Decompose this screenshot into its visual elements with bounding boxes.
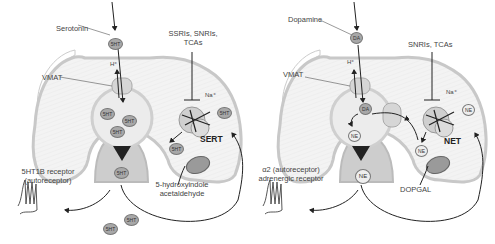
left-receptor-label-line1: 5HT1B receptor (18, 167, 78, 176)
vesicle-ne-molecule: NE (348, 130, 361, 142)
vesicle-serotonin-molecule: 5HT (122, 115, 137, 127)
right-receptor-label-line1: α2 (autoreceptor) (250, 165, 332, 174)
left-metabolite-line2: acetaldehyde (150, 189, 214, 198)
left-drug-label-line2: TCAs (165, 38, 221, 47)
left-metabolite-line1: 5-hydroxyindole (150, 180, 214, 189)
left-metabolite-label: 5-hydroxyindole acetaldehyde (150, 180, 214, 198)
right-proton-label: H⁺ (347, 58, 354, 67)
left-autoreceptor-icon (18, 180, 37, 214)
left-proton-label: H⁺ (110, 60, 117, 69)
left-receptor-label-line2: (autoreceptor) (18, 176, 78, 185)
dopgal-label: DOPGAL (400, 185, 431, 194)
left-drug-label-line1: SSRIs, SNRIs, (165, 29, 221, 38)
serotonin-label: Serotonin (56, 24, 88, 33)
sert-label: SERT (200, 135, 223, 144)
cytosolic-ne-molecule: NE (415, 145, 428, 157)
vesicle-serotonin-molecule: 5HT (100, 108, 115, 120)
vesicle-serotonin-molecule: 5HT (110, 126, 125, 138)
synaptic-serotonin-molecule: 5HT (103, 223, 118, 235)
right-presynaptic-terminal (278, 50, 486, 182)
reuptake-ne-molecule: NE (462, 104, 475, 116)
left-presynaptic-terminal (33, 50, 241, 182)
vesicle-dopamine-molecule: DA (359, 103, 372, 115)
left-vmat-label: VMAT (42, 73, 62, 82)
serotonin-molecule: 5HT (108, 38, 123, 50)
released-ne-molecule: NE (355, 169, 371, 184)
dopamine-molecule: DA (350, 32, 363, 44)
left-sodium-label: Na⁺ (205, 91, 216, 100)
dopamine-label: Dopamine (288, 15, 322, 24)
synaptic-serotonin-molecule: 5HT (124, 214, 139, 226)
right-vmat-label: VMAT (283, 70, 303, 79)
net-label: NET (444, 137, 461, 146)
released-serotonin-molecule: 5HT (114, 167, 129, 179)
left-drug-label: SSRIs, SNRIs, TCAs (165, 29, 221, 47)
right-receptor-label-line2: adrenergic receptor (250, 174, 332, 183)
diagram-canvas (0, 0, 495, 244)
right-autoreceptor-icon (263, 180, 282, 214)
right-receptor-label: α2 (autoreceptor) adrenergic receptor (250, 165, 332, 183)
reuptake-serotonin-molecule: 5HT (217, 107, 232, 119)
right-sodium-label: Na⁺ (446, 88, 457, 97)
cytosolic-serotonin-molecule: 5HT (169, 143, 184, 155)
right-drug-label: SNRIs, TCAs (408, 40, 452, 49)
left-receptor-label: 5HT1B receptor (autoreceptor) (18, 167, 78, 185)
